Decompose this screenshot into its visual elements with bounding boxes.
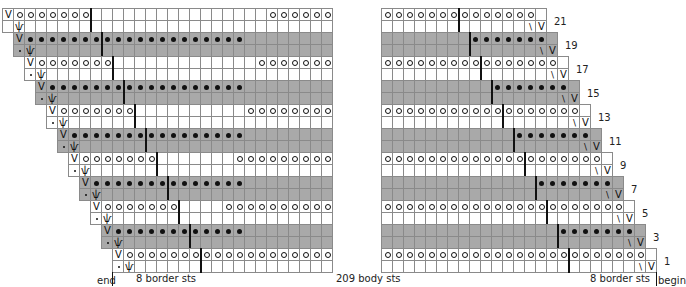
border-divider-line — [458, 8, 460, 33]
border-divider-line — [502, 104, 504, 129]
border-divider-line — [123, 80, 125, 105]
border-divider-line — [524, 152, 526, 177]
row-number-label: 7 — [631, 184, 637, 195]
border-divider-line — [134, 104, 136, 129]
border-divider-line — [513, 128, 515, 153]
border-divider-line — [156, 152, 158, 177]
begin-label: begin — [658, 275, 686, 286]
row-number-label: 1 — [664, 256, 670, 267]
left-border-label: 8 border sts — [136, 273, 196, 284]
left-chart-cell — [321, 260, 333, 273]
border-divider-line — [656, 272, 657, 286]
row-number-label: 11 — [609, 136, 622, 147]
border-divider-line — [200, 248, 202, 273]
right-border-label: 8 border sts — [590, 273, 650, 284]
row-number-label: 19 — [565, 40, 578, 51]
row-number-label: 5 — [642, 208, 648, 219]
border-divider-line — [535, 176, 537, 201]
border-divider-line — [546, 200, 548, 225]
border-divider-line — [178, 200, 180, 225]
border-divider-line — [491, 80, 493, 105]
border-divider-line — [90, 8, 92, 33]
border-divider-line — [145, 128, 147, 153]
border-divider-line — [557, 224, 559, 249]
body-sts-label: 209 body sts — [336, 273, 401, 284]
row-number-label: 9 — [620, 160, 626, 171]
border-divider-line — [112, 56, 114, 81]
end-label: end — [97, 275, 116, 286]
row-number-label: 17 — [576, 64, 589, 75]
row-number-label: 3 — [653, 232, 659, 243]
row-number-label: 15 — [587, 88, 600, 99]
border-divider-line — [469, 32, 471, 57]
border-divider-line — [480, 56, 482, 81]
border-divider-line — [101, 32, 103, 57]
border-divider-line — [167, 176, 169, 201]
row-number-label: 13 — [598, 112, 611, 123]
border-divider-line — [189, 224, 191, 249]
row-number-label: 21 — [554, 16, 567, 27]
border-divider-line — [568, 248, 570, 273]
